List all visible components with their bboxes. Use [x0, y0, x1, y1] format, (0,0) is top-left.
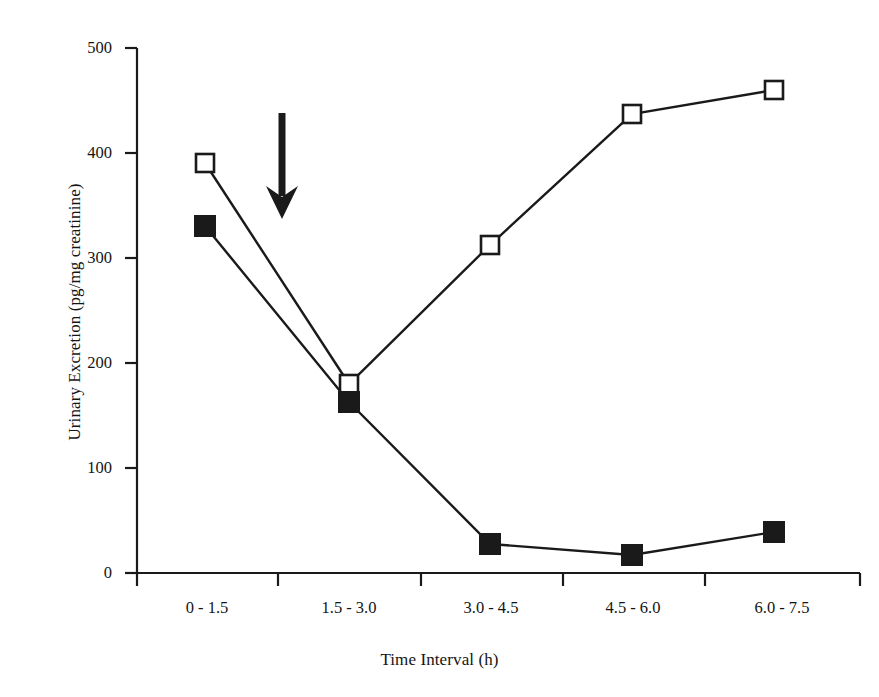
series-filled-square-markers [195, 216, 784, 565]
marker-filled-square-4 [622, 545, 642, 565]
marker-open-square-1 [196, 154, 214, 172]
down-arrow-icon [266, 113, 298, 219]
marker-open-square-3 [481, 236, 499, 254]
series-filled-square-line [205, 226, 774, 555]
y-tick-label-0: 0 [60, 563, 112, 583]
chart-plot-area [0, 0, 879, 697]
marker-open-square-2 [340, 375, 358, 393]
y-tick-label-500: 500 [60, 38, 112, 58]
x-axis-title: Time Interval (h) [0, 650, 879, 670]
marker-filled-square-1 [195, 216, 215, 236]
y-axis-title: Urinary Excretion (pg/mg creatinine) [65, 82, 85, 542]
marker-filled-square-5 [764, 522, 784, 542]
y-axis-ticks [125, 48, 137, 573]
x-tick-label-3: 4.5 - 6.0 [606, 598, 661, 618]
marker-open-square-4 [623, 105, 641, 123]
marker-open-square-5 [765, 81, 783, 99]
x-tick-label-4: 6.0 - 7.5 [755, 598, 810, 618]
x-axis-ticks [137, 573, 860, 586]
chart-figure: 500 400 300 200 100 0 0 - 1.5 1.5 - 3.0 … [0, 0, 879, 697]
marker-filled-square-2 [339, 392, 359, 412]
x-tick-label-1: 1.5 - 3.0 [322, 598, 377, 618]
x-tick-label-0: 0 - 1.5 [186, 598, 229, 618]
marker-filled-square-3 [480, 534, 500, 554]
x-tick-label-2: 3.0 - 4.5 [464, 598, 519, 618]
